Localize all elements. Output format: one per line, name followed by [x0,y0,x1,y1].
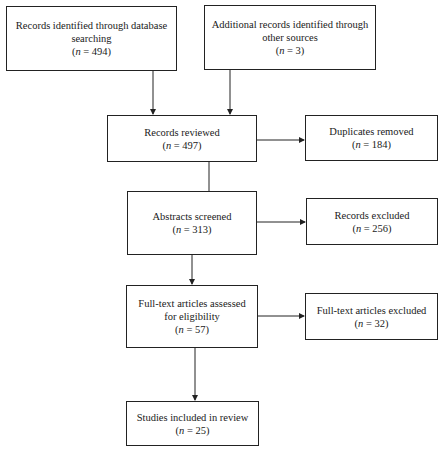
node-label: Studies included in review [137,411,249,424]
node-label: Duplicates removed [329,125,413,138]
node-count: (n = 32) [355,317,389,330]
node-label: Full-text articles assessed for eligibil… [131,297,253,323]
node-records-excluded: Records excluded (n = 256) [306,198,438,245]
node-label: Additional records identified through ot… [209,18,371,44]
node-count: (n = 3) [276,44,305,57]
node-label: Records reviewed [144,126,220,139]
node-count: (n = 184) [352,138,391,151]
node-abstracts-screened: Abstracts screened (n = 313) [127,191,257,255]
node-count: (n = 256) [352,222,391,235]
node-fulltext-assessed: Full-text articles assessed for eligibil… [126,285,258,348]
node-count: (n = 494) [72,45,111,58]
node-records-reviewed: Records reviewed (n = 497) [107,115,257,162]
node-label: Abstracts screened [152,210,231,223]
node-identified-other: Additional records identified through ot… [204,5,376,70]
node-count: (n = 313) [172,223,211,236]
node-count: (n = 57) [175,323,209,336]
node-duplicates-removed: Duplicates removed (n = 184) [305,115,438,161]
node-studies-included: Studies included in review (n = 25) [126,401,259,446]
node-fulltext-excluded: Full-text articles excluded (n = 32) [305,293,438,340]
node-count: (n = 25) [176,424,210,437]
node-label: Full-text articles excluded [317,304,427,317]
node-identified-database: Records identified through database sear… [6,6,177,71]
node-count: (n = 497) [162,139,201,152]
node-label: Records excluded [335,209,410,222]
node-label: Records identified through database sear… [11,19,172,45]
